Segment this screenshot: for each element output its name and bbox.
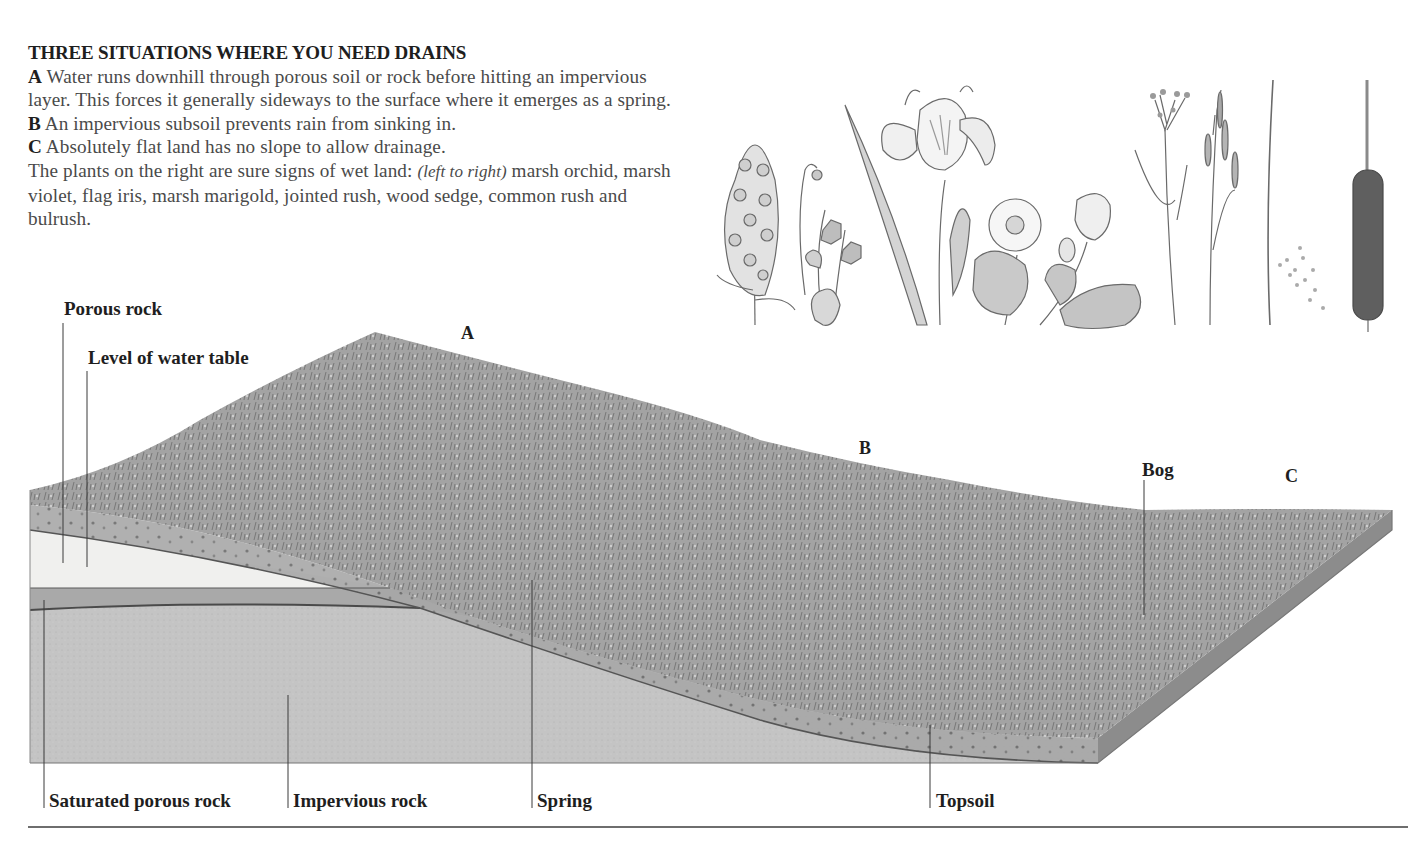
caption-item-key: C (28, 136, 42, 157)
caption-item-c: C Absolutely flat land has no slope to a… (28, 135, 688, 159)
plants-note: The plants on the right are sure signs o… (28, 159, 688, 231)
landscape-cross-section (0, 290, 1419, 830)
caption-heading: THREE SITUATIONS WHERE YOU NEED DRAINS (28, 41, 688, 65)
caption-item-key: B (28, 113, 41, 134)
label-topsoil: Topsoil (936, 790, 994, 812)
plants-note-italic: (left to right) (417, 162, 506, 181)
label-impervious-rock: Impervious rock (293, 790, 427, 812)
common-rush-illustration (1268, 80, 1325, 325)
bottom-divider (28, 826, 1408, 828)
caption-item-key: A (28, 66, 42, 87)
plants-note-before: The plants on the right are sure signs o… (28, 160, 417, 181)
label-spring: Spring (537, 790, 592, 812)
situation-letter-b: B (859, 438, 871, 459)
caption-item-text: Water runs downhill through porous soil … (28, 66, 671, 111)
label-water-table: Level of water table (88, 347, 249, 369)
caption-item-text: An impervious subsoil prevents rain from… (45, 113, 456, 134)
label-bog: Bog (1142, 459, 1174, 481)
caption-item-a: A Water runs downhill through porous soi… (28, 65, 688, 112)
situation-letter-a: A (461, 323, 474, 344)
caption-block: THREE SITUATIONS WHERE YOU NEED DRAINS A… (28, 41, 688, 231)
cross-section-diagram: A B C Porous rock Level of water table B… (0, 290, 1419, 830)
label-saturated-porous-rock: Saturated porous rock (49, 790, 231, 812)
caption-item-b: B An impervious subsoil prevents rain fr… (28, 112, 688, 136)
caption-item-text: Absolutely flat land has no slope to all… (46, 136, 446, 157)
situation-letter-c: C (1285, 466, 1298, 487)
label-porous-rock: Porous rock (64, 298, 162, 320)
